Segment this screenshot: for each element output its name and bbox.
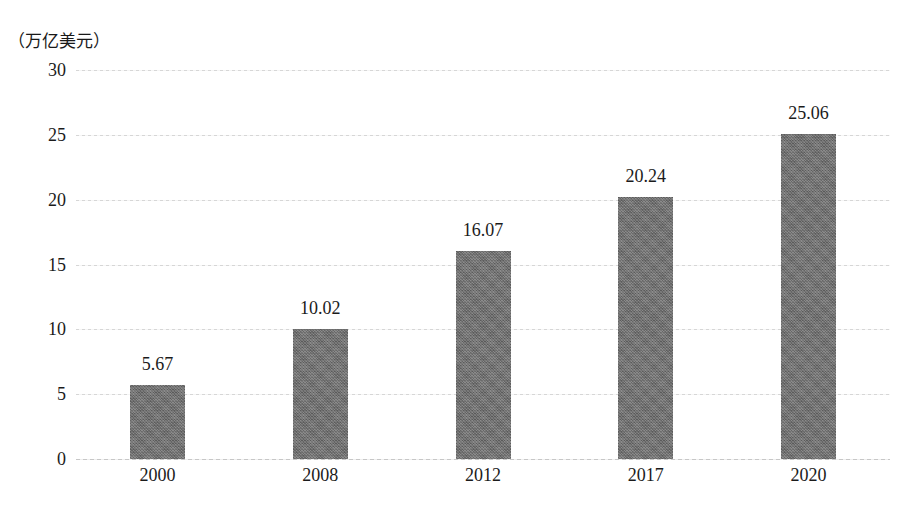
bar[interactable] [618,197,673,459]
bar[interactable] [781,134,836,459]
y-axis-tick-label: 20 [26,191,66,209]
x-axis-tick-label: 2012 [465,466,501,484]
y-axis-tick-label: 0 [26,450,66,468]
bar[interactable] [293,329,348,459]
bar[interactable] [456,251,511,459]
y-axis-tick-label: 10 [26,320,66,338]
bar[interactable] [130,385,185,459]
x-axis-tick-label: 2020 [791,466,827,484]
y-axis-tick-label: 30 [26,61,66,79]
y-axis-tick-label: 5 [26,385,66,403]
gridline [76,459,890,460]
bar-group: 10.02 [293,70,348,459]
x-axis-tick-label: 2000 [139,466,175,484]
y-axis: 051015202530 [20,70,66,459]
bar-group: 5.67 [130,70,185,459]
plot-area: 5.6710.0216.0720.2425.06 [76,70,890,459]
x-axis-tick-label: 2017 [628,466,664,484]
bar-group: 16.07 [456,70,511,459]
bar-value-label: 16.07 [463,221,504,239]
y-axis-tick-label: 25 [26,126,66,144]
bar-value-label: 10.02 [300,299,341,317]
y-axis-tick-label: 15 [26,256,66,274]
unit-caption: （万亿美元） [8,27,110,52]
bar-group: 25.06 [781,70,836,459]
x-axis-tick-label: 2008 [302,466,338,484]
bar-value-label: 5.67 [142,355,174,373]
x-axis: 20002008201220172020 [76,466,890,506]
bar-group: 20.24 [618,70,673,459]
bar-value-label: 20.24 [626,167,667,185]
bar-value-label: 25.06 [788,104,829,122]
bar-chart: （万亿美元） 051015202530 5.6710.0216.0720.242… [0,0,913,532]
